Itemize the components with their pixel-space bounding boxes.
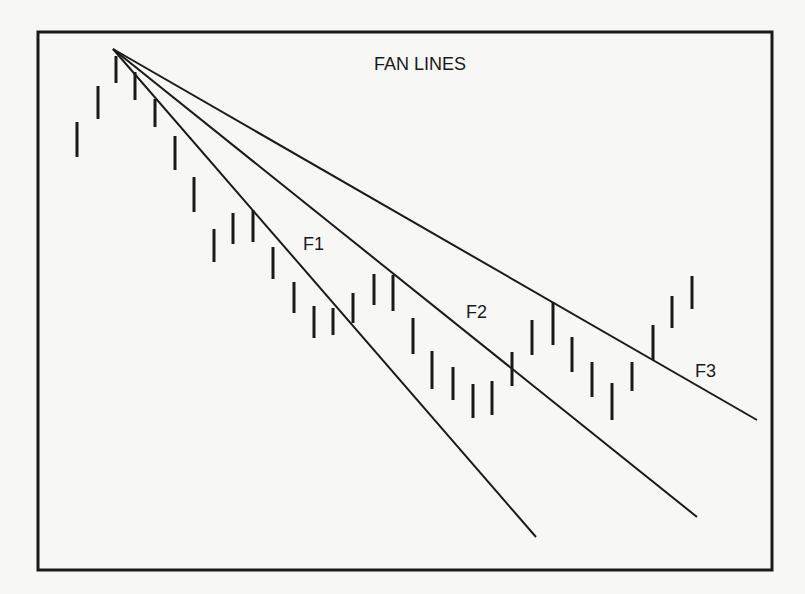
fan-lines [113, 49, 757, 537]
chart-title: FAN LINES [374, 54, 466, 74]
price-bars [77, 56, 692, 420]
fan-line-f2 [113, 49, 697, 517]
fan-lines-chart: FAN LINES F1 F2 F3 [0, 0, 805, 594]
fan-label-f3: F3 [695, 361, 716, 381]
fan-line-f3 [113, 49, 757, 420]
fan-line-f1 [113, 49, 536, 537]
fan-label-f1: F1 [303, 234, 324, 254]
fan-label-f2: F2 [466, 302, 487, 322]
